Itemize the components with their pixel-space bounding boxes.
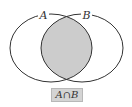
intersection-caption: A∩B — [51, 88, 83, 102]
set-b-label: B — [81, 9, 90, 22]
set-a-label: A — [39, 9, 48, 22]
